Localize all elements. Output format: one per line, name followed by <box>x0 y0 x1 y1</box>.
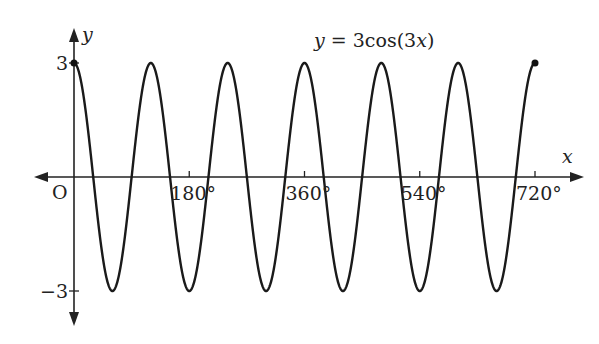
x-tick-label: 180° <box>170 182 216 204</box>
x-tick-label: 360° <box>286 182 332 204</box>
x-axis-right-arrow-icon <box>570 172 584 182</box>
y-tick-label: 3 <box>56 52 68 74</box>
x-axis-label: x <box>562 145 573 167</box>
y-axis-label: y <box>81 23 93 45</box>
equation-label: y = 3cos(3x) <box>313 29 434 51</box>
origin-label: O <box>52 181 68 203</box>
x-axis-left-arrow-icon <box>34 172 48 182</box>
chart-svg: y x O y = 3cos(3x) 180°360°540°720°3−3 <box>0 0 599 344</box>
start-point <box>71 60 78 67</box>
x-tick-label: 720° <box>516 182 562 204</box>
x-tick-label: 540° <box>401 182 447 204</box>
end-point <box>532 60 539 67</box>
y-axis-down-arrow-icon <box>69 312 79 326</box>
y-tick-label: −3 <box>40 280 68 302</box>
y-axis-up-arrow-icon <box>69 28 79 42</box>
chart: y x O y = 3cos(3x) 180°360°540°720°3−3 <box>0 0 599 344</box>
